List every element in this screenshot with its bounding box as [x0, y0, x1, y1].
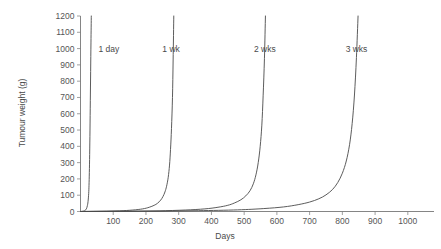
y-tick-label: 400: [60, 141, 74, 151]
y-tick-label: 1000: [56, 44, 75, 54]
series-annotations: 1 day1 wk2 wks3 wks: [99, 44, 368, 54]
series-label: 1 wk: [162, 44, 180, 54]
chart-canvas: 0100200300400500600700800900100011001200…: [0, 0, 441, 249]
growth-curve: [81, 16, 92, 212]
y-tick-label: 0: [70, 207, 75, 217]
x-tick-label: 300: [172, 216, 186, 226]
x-axis-title: Days: [215, 231, 234, 241]
y-tick-label: 700: [60, 92, 74, 102]
y-tick-label: 500: [60, 125, 74, 135]
y-tick-label: 200: [60, 174, 74, 184]
growth-curve: [81, 16, 359, 212]
growth-curve: [81, 16, 174, 212]
y-tick-label: 1100: [56, 27, 75, 37]
y-tick-label: 900: [60, 60, 74, 70]
y-tick-label: 1200: [56, 11, 75, 21]
x-tick-label: 900: [368, 216, 382, 226]
y-tick-label: 300: [60, 158, 74, 168]
x-tick-label: 1000: [398, 216, 417, 226]
series-label: 1 day: [99, 44, 121, 54]
x-tick-label: 700: [303, 216, 317, 226]
tumour-growth-chart: 0100200300400500600700800900100011001200…: [0, 0, 441, 249]
y-tick-label: 800: [60, 76, 74, 86]
y-axis-tick-marks: [77, 16, 81, 212]
y-axis-tick-labels: 0100200300400500600700800900100011001200: [56, 11, 75, 217]
x-axis-tick-labels: 1002003004005006007008009001000: [106, 216, 417, 226]
x-tick-label: 500: [237, 216, 251, 226]
series-label: 2 wks: [254, 44, 276, 54]
x-tick-label: 800: [335, 216, 349, 226]
x-tick-label: 400: [204, 216, 218, 226]
y-tick-label: 100: [60, 190, 74, 200]
y-axis-title: Tumour weight (g): [17, 79, 27, 148]
x-axis-tick-marks: [113, 212, 408, 216]
growth-curves: [81, 16, 359, 212]
x-tick-label: 100: [106, 216, 120, 226]
series-label: 3 wks: [346, 44, 368, 54]
x-tick-label: 600: [270, 216, 284, 226]
x-tick-label: 200: [139, 216, 153, 226]
y-tick-label: 600: [60, 109, 74, 119]
